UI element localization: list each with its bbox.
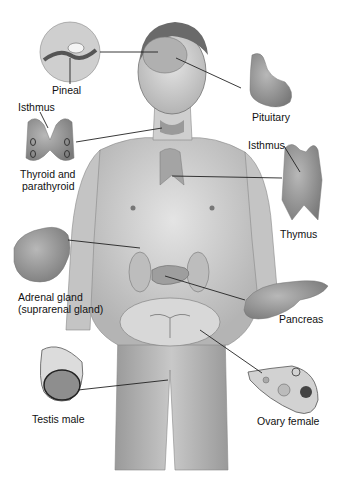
adrenal-inset [14,227,70,282]
endocrine-diagram: Pineal Pituitary Isthmus Thyroid and par… [0,0,339,477]
label-thyroid-line2: parathyroid [22,180,75,192]
label-pituitary: Pituitary [252,111,290,123]
pituitary-inset [250,54,292,107]
ovary-inset [248,366,318,414]
label-isthmus-thymus: Isthmus [248,139,285,151]
human-body [66,22,278,470]
thymus-inset [282,144,322,220]
label-pancreas: Pancreas [279,313,323,325]
label-testis: Testis male [32,413,85,425]
label-adrenal-line1: Adrenal gland [18,291,83,303]
label-isthmus-thyroid: Isthmus [18,101,55,113]
thyroid-inset [26,119,74,161]
label-ovary: Ovary female [257,415,319,427]
label-thymus: Thymus [280,228,317,240]
label-adrenal-line2: (suprarenal gland) [18,303,103,315]
label-thyroid-line1: Thyroid and [20,168,75,180]
testis-inset [40,347,82,401]
label-pineal: Pineal [52,84,81,96]
